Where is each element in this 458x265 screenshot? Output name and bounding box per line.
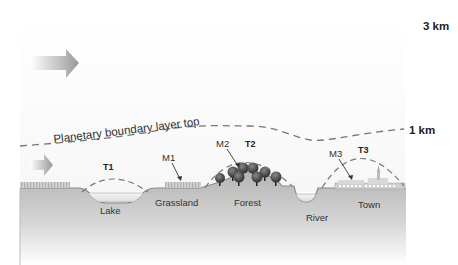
label-t3: T3 [358,145,369,155]
label-town: Town [358,199,380,210]
height-label-1km: 1 km [409,124,435,136]
label-grassland: Grassland [155,197,198,208]
lake-water [88,193,144,202]
sky-panel [20,22,405,192]
grass-strip-left [20,182,70,188]
label-t1: T1 [103,162,114,172]
boundary-layer-diagram: 3 km 1 km Planetary boundary layer top T… [0,0,458,265]
label-m2: M2 [216,138,229,149]
label-forest: Forest [234,197,261,208]
label-lake: Lake [100,205,121,216]
height-label-3km: 3 km [423,20,449,32]
label-m1: M1 [162,152,175,163]
label-t2: T2 [245,139,256,149]
label-m3: M3 [329,148,342,159]
label-river: River [306,212,328,223]
grass-strip-grassland [165,182,201,188]
